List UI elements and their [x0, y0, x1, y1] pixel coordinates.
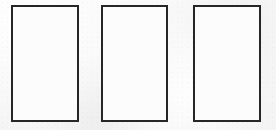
rectangle-2	[101, 5, 168, 122]
rectangle-1	[11, 5, 79, 122]
rectangle-2-label	[103, 7, 166, 120]
figure-canvas	[0, 0, 276, 130]
rectangle-1-label	[13, 7, 77, 120]
rectangle-3	[193, 5, 261, 122]
rectangle-3-label	[195, 7, 259, 120]
